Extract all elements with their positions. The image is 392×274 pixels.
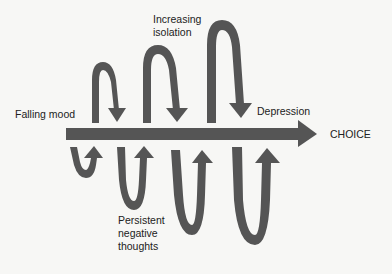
label-isolation: isolation [153, 26, 201, 39]
label-choice: CHOICE [330, 128, 371, 141]
bottom-loop-arrow-4 [232, 147, 280, 245]
label-increasing: Increasing [153, 13, 201, 26]
label-persistent-negative-thoughts: Persistent negative thoughts [118, 214, 165, 253]
label-negative: negative [118, 227, 165, 240]
label-increasing-isolation: Increasing isolation [153, 13, 201, 39]
top-loop-arrow-1 [92, 62, 126, 123]
bottom-loop-arrow-1 [70, 146, 103, 178]
bottom-loop-arrow-3 [171, 150, 213, 235]
label-thoughts: thoughts [118, 240, 165, 253]
top-loop-arrow-3 [207, 20, 252, 123]
label-depression: Depression [257, 105, 310, 118]
main-choice-arrow [66, 120, 317, 147]
label-persistent: Persistent [118, 214, 165, 227]
label-falling-mood: Falling mood [15, 108, 75, 121]
bottom-loop-arrow-2 [117, 146, 154, 210]
top-loop-arrow-2 [143, 45, 188, 123]
